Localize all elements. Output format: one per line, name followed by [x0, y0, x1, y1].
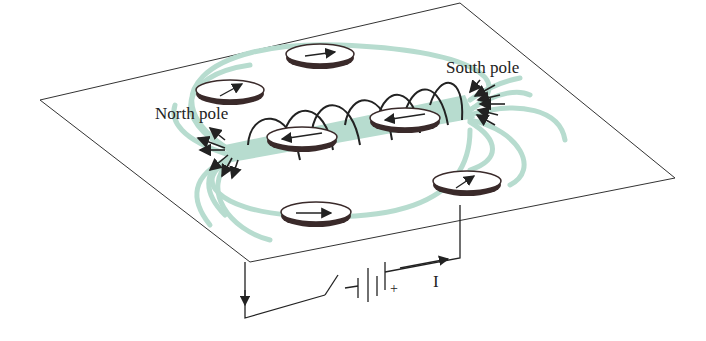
solenoid-diagram: North pole South pole + I [0, 0, 706, 341]
compass-upper-left [196, 80, 264, 105]
switch [325, 275, 338, 295]
compass-top [286, 44, 354, 69]
diagram-svg [0, 0, 706, 341]
north-pole-label: North pole [155, 104, 228, 124]
compass-bottom [281, 202, 351, 227]
battery-plus-label: + [390, 281, 398, 297]
compass-lower-right [433, 171, 501, 196]
current-label: I [433, 272, 439, 292]
compass-inside-right [370, 108, 440, 133]
compass-inside-left [267, 127, 337, 152]
south-pole-label: South pole [446, 58, 519, 78]
